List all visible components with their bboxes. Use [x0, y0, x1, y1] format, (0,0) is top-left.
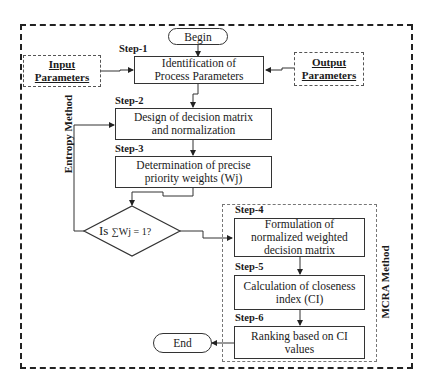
- step-1-box: Identification of Process Parameters: [134, 56, 264, 84]
- step-3-text: Determination of precise priority weight…: [136, 159, 251, 185]
- step-6-label: Step-6: [235, 312, 264, 323]
- mcra-method-label: MCRA Method: [379, 237, 391, 327]
- step-3-box: Determination of precise priority weight…: [115, 156, 272, 188]
- end-label: End: [173, 337, 192, 349]
- step-6-text: Ranking based on CI values: [249, 330, 350, 356]
- step-1-text: Identification of Process Parameters: [147, 57, 251, 83]
- step-5-text: Calculation of closeness index (CI): [241, 280, 358, 306]
- output-parameters-line2: Parameters: [302, 69, 356, 82]
- output-parameters-line1: Output: [312, 56, 346, 69]
- step-1-label: Step-1: [119, 43, 148, 54]
- step-2-text: Design of decision matrix and normalizat…: [130, 111, 257, 137]
- step-2-label: Step-2: [115, 95, 144, 106]
- step-4-label: Step-4: [235, 204, 264, 215]
- decision-condition: ∑Wj = 1?: [112, 226, 151, 237]
- step-2-box: Design of decision matrix and normalizat…: [115, 108, 272, 140]
- step-4-box: Formulation of normalized weighted decis…: [234, 218, 365, 257]
- decision-text: Is ∑Wj = 1?: [99, 223, 151, 239]
- step-6-box: Ranking based on CI values: [234, 326, 365, 359]
- step-4-text: Formulation of normalized weighted decis…: [245, 218, 354, 257]
- step-5-label: Step-5: [235, 261, 264, 272]
- end-terminal: End: [153, 333, 212, 353]
- input-parameters-box: Input Parameters: [23, 55, 101, 87]
- begin-label: Begin: [184, 31, 211, 43]
- step-5-box: Calculation of closeness index (CI): [234, 275, 365, 310]
- begin-terminal: Begin: [168, 28, 228, 45]
- input-parameters-line2: Parameters: [35, 71, 89, 84]
- output-parameters-box: Output Parameters: [294, 52, 364, 86]
- entropy-method-label: Entropy Method: [62, 84, 74, 184]
- input-parameters-line1: Input: [49, 58, 75, 71]
- step-3-label: Step-3: [115, 143, 144, 154]
- decision-prefix: Is: [99, 223, 108, 238]
